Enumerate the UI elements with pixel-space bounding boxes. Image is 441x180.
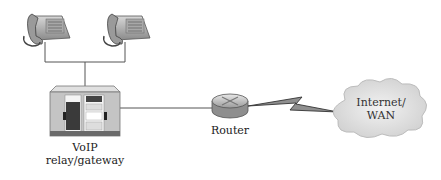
cloud-label-line1: Internet/ — [344, 96, 418, 109]
telephone-icon[interactable] — [24, 14, 70, 46]
gateway-label-line2: relay/gateway — [45, 154, 125, 167]
cloud-label: Internet/ WAN — [344, 96, 418, 122]
gateway-label-line1: VoIP — [45, 141, 125, 154]
router-label: Router — [200, 124, 260, 137]
telephone-icon[interactable] — [104, 14, 150, 46]
gateway-label: VoIP relay/gateway — [45, 141, 125, 167]
server-rack-icon[interactable] — [50, 86, 120, 136]
wan-link-lightning-bolt — [248, 97, 338, 112]
router-icon[interactable] — [212, 94, 248, 118]
phone-connector-lines — [45, 42, 125, 88]
cloud-label-line2: WAN — [344, 109, 418, 122]
